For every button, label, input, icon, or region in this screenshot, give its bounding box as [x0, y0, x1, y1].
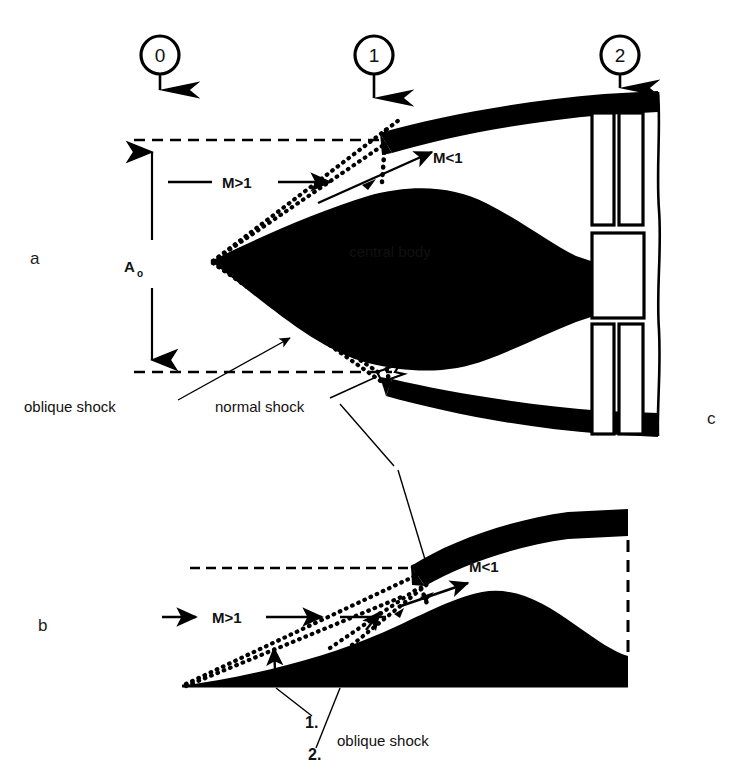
central-body-label: central body [349, 243, 431, 260]
shock-item-1-label: 1. [305, 714, 318, 731]
inlet-shock-figure: 0 1 2 A o M>1 [0, 0, 733, 784]
oblique-shock-callout-b: oblique shock [337, 732, 429, 749]
shock-item-2-label: 2. [308, 746, 321, 763]
oblique-shock-callout-a: oblique shock [24, 398, 116, 415]
station-label: 2 [615, 45, 626, 66]
engine-face-box [592, 233, 644, 318]
shock-angle-arrow-1 [274, 648, 275, 670]
station-label: 1 [369, 45, 380, 66]
mach-supersonic-label-b: M>1 [212, 609, 242, 626]
normal-shock-callout-a: normal shock [215, 398, 305, 415]
inlet-vane-upper-1 [592, 113, 614, 225]
mach-subsonic-label-a: M<1 [433, 149, 463, 166]
panel-label-c: c [707, 409, 716, 428]
mach-supersonic-label-a: M>1 [222, 174, 252, 191]
inlet-vane-lower-2 [619, 324, 643, 434]
duct-exit-edge [658, 92, 660, 436]
capture-area-label: A [124, 258, 135, 275]
inlet-vane-lower-1 [592, 324, 614, 434]
mach-subsonic-label-b: M<1 [469, 558, 499, 575]
panel-label-a: a [30, 249, 40, 268]
capture-area-subscript: o [137, 268, 143, 279]
station-label: 0 [155, 45, 166, 66]
inlet-vane-upper-2 [619, 113, 643, 225]
panel-label-b: b [38, 616, 47, 635]
